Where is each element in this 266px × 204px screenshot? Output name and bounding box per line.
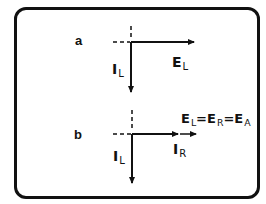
equation-term: E xyxy=(181,111,190,126)
vector-subscript: L xyxy=(183,61,189,72)
panel-a-il-label: IL xyxy=(112,62,124,76)
equation-subscript: A xyxy=(244,117,250,128)
panel-b-ir-label: IR xyxy=(173,142,186,156)
panel-b-il-label: IL xyxy=(113,149,125,163)
equals-sign: = xyxy=(196,111,207,126)
vector-subscript: R xyxy=(179,148,186,159)
vector-subscript: L xyxy=(119,155,125,166)
panel-b-equation: EL=ER=EA xyxy=(181,112,251,125)
equation-term: E xyxy=(207,111,216,126)
equals-sign: = xyxy=(223,111,234,126)
equation-subscript: R xyxy=(217,117,224,128)
panel-a-axes xyxy=(113,26,131,42)
vector-symbol: I xyxy=(113,148,118,164)
vector-symbol: I xyxy=(173,141,178,157)
panel-a-el-label: EL xyxy=(172,55,188,69)
equation-term: E xyxy=(234,111,243,126)
phasor-diagram xyxy=(0,0,266,204)
vector-symbol: I xyxy=(112,61,117,77)
panel-a-label: a xyxy=(75,34,82,47)
panel-b-label: b xyxy=(74,128,82,141)
equation-subscript: L xyxy=(191,117,196,128)
panel-b-axes xyxy=(113,110,132,134)
vector-subscript: L xyxy=(118,68,124,79)
vector-symbol: E xyxy=(172,54,182,70)
